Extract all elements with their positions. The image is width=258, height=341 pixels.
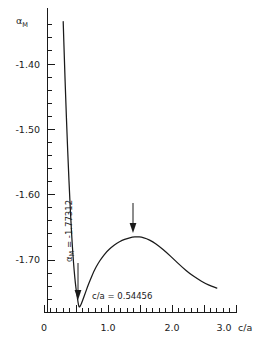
minimum-alpha-label: αM = -1.77312 xyxy=(64,200,76,262)
minimum-ca-label: c/a = 0.54456 xyxy=(92,291,152,301)
y-tick-label-2: -1.60 xyxy=(15,189,40,200)
y-tick-label-1: -1.50 xyxy=(15,124,40,135)
x-axis-title: c/a xyxy=(238,322,252,333)
x-tick-label-0: 0 xyxy=(41,322,47,333)
y-axis-ticks xyxy=(48,25,56,313)
y-tick-label-0: -1.40 xyxy=(15,59,40,70)
x-tick-label-1: 1.0 xyxy=(100,322,115,333)
maximum-arrow-head xyxy=(130,223,137,233)
minimum-arrow-head xyxy=(75,290,82,300)
axis-titles: αM c/a xyxy=(16,15,252,333)
y-tick-label-3: -1.70 xyxy=(15,254,40,265)
madelung-curve xyxy=(63,22,217,307)
x-axis-tick-labels: 0 1.0 2.0 3.0 xyxy=(41,322,232,333)
y-axis-tick-labels: -1.40 -1.50 -1.60 -1.70 xyxy=(15,59,40,266)
plot-canvas: -1.40 -1.50 -1.60 -1.70 0 1.0 2.0 3.0 αM… xyxy=(0,0,258,341)
x-tick-label-3: 3.0 xyxy=(216,322,231,333)
axes-group xyxy=(44,8,236,313)
annotation-local-maximum xyxy=(130,203,137,233)
minimum-alpha-label-value: = -1.77312 xyxy=(64,200,74,251)
madelung-constant-chart: -1.40 -1.50 -1.60 -1.70 0 1.0 2.0 3.0 αM… xyxy=(0,0,258,341)
y-axis-title-subscript: M xyxy=(22,21,28,29)
y-axis-title: αM xyxy=(16,15,28,29)
x-axis-ticks xyxy=(44,305,236,313)
x-tick-label-2: 2.0 xyxy=(164,322,179,333)
